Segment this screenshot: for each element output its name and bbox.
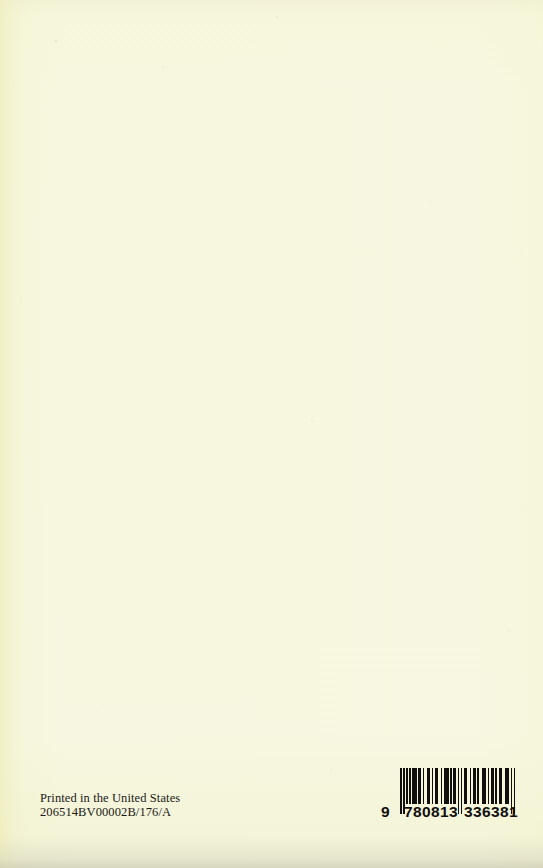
paper-texture-overlay	[0, 0, 543, 868]
barcode-bars	[400, 768, 532, 804]
barcode-right-group-digits: 336381	[464, 803, 518, 821]
top-edge-shading	[0, 0, 543, 16]
bottom-edge-shading	[0, 838, 543, 868]
barcode-lead-digit: 9	[381, 803, 390, 821]
printing-information-block: Printed in the United States 206514BV000…	[40, 791, 180, 819]
print-batch-code-line: 206514BV00002B/176/A	[40, 805, 180, 819]
printed-in-country-line: Printed in the United States	[40, 791, 180, 805]
barcode-human-readable-digits: 9 780813 336381	[380, 802, 532, 822]
isbn-barcode: 9 780813 336381	[380, 764, 532, 822]
left-edge-shading	[0, 0, 26, 868]
book-back-cover-page: Printed in the United States 206514BV000…	[0, 0, 543, 868]
barcode-left-group-digits: 780813	[404, 803, 458, 821]
